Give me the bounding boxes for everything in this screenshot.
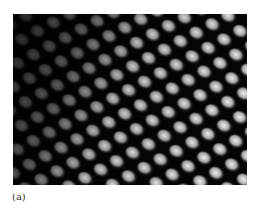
figure-caption-label: (a)	[12, 191, 26, 202]
lattice-micrograph-image	[13, 14, 247, 185]
